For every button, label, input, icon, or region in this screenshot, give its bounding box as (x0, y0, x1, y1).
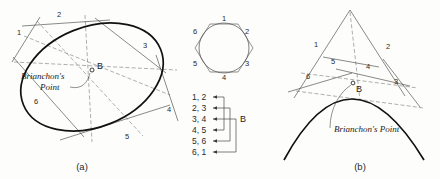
label-side-4-a: 4 (167, 105, 171, 114)
label-side-2-a: 2 (57, 10, 61, 19)
arrow-row-1 (213, 95, 217, 98)
label-side-5-b: 5 (331, 57, 335, 66)
tangent-side-6 (13, 57, 84, 137)
pairing-row-4: 4, 5 (192, 125, 206, 135)
label-side-4-b: 4 (366, 62, 370, 71)
label-side-3-a: 3 (143, 41, 147, 50)
label-hex-side-2: 2 (245, 27, 249, 36)
bracket-1-2-to-4-5 (213, 97, 224, 130)
pairing-label-b: B (240, 114, 246, 124)
point-marker-b (90, 68, 94, 72)
bracket-3-4-to-6-1 (213, 119, 236, 152)
arrow-row-3 (213, 117, 217, 120)
panel-a-brianchon-point (90, 68, 94, 72)
bracket-2-3-to-5-6 (213, 108, 230, 141)
bracket-arrowheads (213, 95, 217, 153)
tangent-b-side-3 (383, 59, 420, 107)
caption-a: (a) (76, 161, 88, 172)
annotation-leader-b (330, 85, 351, 128)
tangent-b-side-4 (336, 69, 410, 86)
label-hex-side-3: 3 (245, 59, 249, 68)
label-side-6-a: 6 (34, 97, 38, 106)
label-hex-side-4: 4 (222, 73, 226, 82)
hexagon-incircle (199, 23, 249, 73)
caption-b: (b) (354, 161, 366, 172)
label-side-2-b: 2 (386, 42, 390, 51)
point-marker-b-b (351, 81, 355, 85)
arrow-row-6 (213, 150, 217, 153)
pairing-row-6: 6, 1 (192, 147, 206, 157)
label-hex-side-6: 6 (193, 27, 197, 36)
arrow-row-5 (213, 139, 217, 142)
panel-b-tangents (288, 10, 420, 107)
panel-middle-group: 1 2 3 4 5 6 1, 2 2, 3 3, 4 4, 5 5, 6 6, … (192, 14, 253, 157)
arrow-row-2 (213, 106, 217, 109)
diagonal-3-6 (14, 62, 177, 70)
tangent-side-2 (22, 20, 110, 26)
label-side-1-a: 1 (17, 28, 21, 37)
label-side-5-a: 5 (125, 132, 129, 141)
pairing-brackets (213, 95, 236, 153)
pairing-row-2: 2, 3 (192, 103, 206, 113)
figure-canvas: 1 2 3 4 5 6 B Brianchon's Point (a) 1 2 … (0, 0, 440, 179)
label-hex-side-1: 1 (222, 14, 226, 23)
tangent-b-side-6 (288, 73, 352, 92)
arrow-row-4 (213, 128, 217, 131)
panel-b-group: 1 2 3 4 5 6 B Brianchon's Point (b) (284, 10, 424, 172)
point-label-b-a: B (97, 61, 103, 71)
pairing-row-5: 5, 6 (192, 136, 206, 146)
annotation-b: Brianchon's Point (334, 124, 400, 134)
label-hex-side-5: 5 (193, 59, 197, 68)
label-side-6-b: 6 (306, 72, 310, 81)
point-label-b-b: B (356, 84, 362, 94)
brianchon-figure: 1 2 3 4 5 6 B Brianchon's Point (a) 1 2 … (0, 0, 440, 179)
pairing-row-3: 3, 4 (192, 114, 206, 124)
label-side-3-b: 3 (394, 77, 398, 86)
label-side-1-b: 1 (314, 40, 318, 49)
panel-a-group: 1 2 3 4 5 6 B Brianchon's Point (a) (5, 3, 180, 172)
annotation-leader-a (70, 73, 90, 88)
pairing-row-1: 1, 2 (192, 92, 206, 102)
tangent-side-5 (60, 105, 170, 140)
annotation-line2-a: Point (39, 82, 60, 92)
annotation-line1-a: Brianchon's (21, 71, 65, 81)
tangent-b-side-1 (294, 10, 350, 98)
